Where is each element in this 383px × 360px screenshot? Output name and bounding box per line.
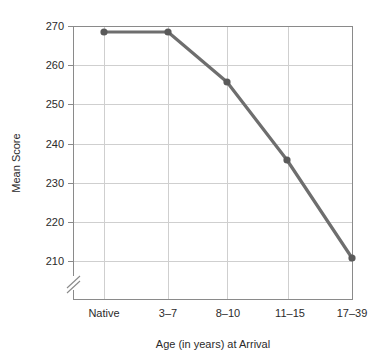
y-tick-label-250: 250: [46, 98, 64, 110]
x-tick-label-11-15: 11–15: [275, 307, 305, 319]
data-point-native: [100, 28, 107, 35]
y-tick-label-210: 210: [46, 255, 64, 267]
y-tick-marks: [68, 27, 73, 262]
data-point-11-15: [283, 156, 290, 163]
line-chart: 270 260 250 240 230 220 210 Mean Score N…: [0, 0, 383, 360]
x-tick-label-17-39: 17–39: [337, 307, 368, 319]
x-axis-tick-labels: Native 3–7 8–10 11–15 17–39: [88, 307, 367, 319]
x-axis-title: Age (in years) at Arrival: [156, 338, 270, 350]
x-tick-label-3-7: 3–7: [159, 307, 177, 319]
y-tick-label-240: 240: [46, 138, 64, 150]
x-tick-label-native: Native: [88, 307, 119, 319]
x-tick-label-8-10: 8–10: [216, 307, 240, 319]
data-point-3-7: [164, 28, 171, 35]
y-axis-tick-labels: 270 260 250 240 230 220 210: [46, 20, 64, 267]
y-tick-label-220: 220: [46, 216, 64, 228]
data-point-17-39: [348, 254, 355, 261]
y-tick-label-230: 230: [46, 177, 64, 189]
chart-figure: 270 260 250 240 230 220 210 Mean Score N…: [0, 0, 383, 360]
y-tick-label-260: 260: [46, 59, 64, 71]
plot-background: [73, 26, 353, 300]
y-tick-label-270: 270: [46, 20, 64, 32]
data-point-8-10: [223, 78, 230, 85]
y-axis-title: Mean Score: [10, 133, 22, 192]
